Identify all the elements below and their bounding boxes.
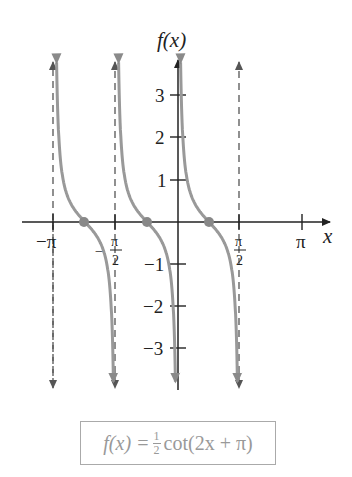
y-tick-3: 3: [155, 85, 165, 106]
y-tick-neg-2: −2: [143, 296, 163, 317]
caption-rhs: cot(2x + π): [164, 432, 253, 455]
x-tick-neg-half-den: 2: [112, 253, 119, 268]
zero-point-3: [204, 217, 214, 227]
y-tick-2: 2: [155, 127, 165, 148]
x-tick-neg-pi: −π: [36, 231, 57, 252]
x-tick-half-num: π: [235, 234, 242, 249]
zero-point-1: [79, 217, 89, 227]
cotangent-chart: f(x) x −π − π 2 π 2 π 3 2 1 −1 −2 −3: [0, 0, 352, 477]
y-tick-neg-1: −1: [144, 254, 164, 275]
y-tick-neg-3: −3: [143, 338, 163, 359]
x-tick-half-den: 2: [236, 253, 243, 268]
caption-fraction: 1 2: [153, 430, 161, 457]
y-tick-1: 1: [157, 170, 167, 191]
y-axis-label: f(x): [157, 28, 186, 52]
x-axis-label: x: [322, 224, 333, 248]
function-caption: f(x) = 1 2 cot(2x + π): [80, 421, 276, 465]
x-tick-pi: π: [296, 231, 306, 252]
x-tick-neg-half-minus: −: [95, 244, 103, 259]
zero-point-2: [142, 217, 152, 227]
caption-lhs: f(x) =: [103, 432, 149, 455]
x-tick-neg-half-num: π: [111, 234, 118, 249]
